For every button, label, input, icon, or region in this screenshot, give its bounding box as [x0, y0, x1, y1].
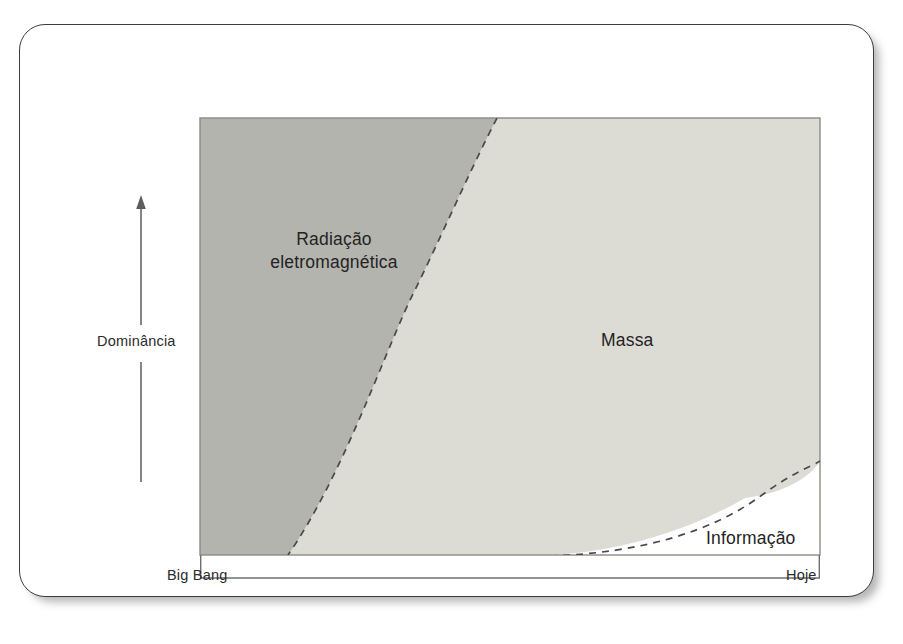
region-label-radiacao: Radiação eletromagnética — [248, 228, 420, 274]
x-axis-tick-label-right: Hoje — [786, 567, 817, 583]
region-label-radiacao-line2: eletromagnética — [270, 252, 398, 272]
y-axis-label: Dominância — [97, 333, 176, 349]
region-label-informacao: Informação — [706, 528, 796, 549]
figure-page: Radiação eletromagnética Massa Informaçã… — [0, 0, 903, 644]
region-label-massa: Massa — [601, 330, 654, 351]
region-label-radiacao-line1: Radiação — [296, 229, 372, 249]
figure-card — [19, 24, 874, 597]
x-axis-tick-label-left: Big Bang — [167, 567, 227, 583]
